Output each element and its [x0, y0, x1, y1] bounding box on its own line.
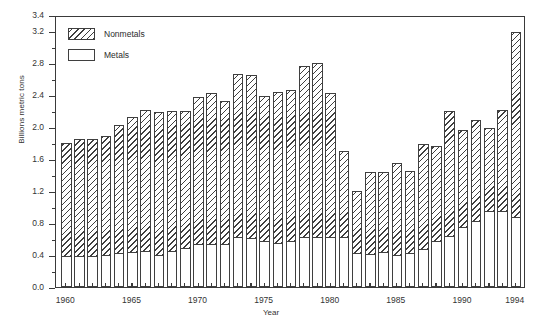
x-tick-mark	[515, 283, 516, 288]
bar-segment-nonmetals	[325, 93, 336, 239]
bar-segment-nonmetals	[101, 136, 112, 256]
bar-segment-nonmetals	[87, 139, 98, 257]
legend-label: Metals	[104, 50, 129, 60]
bar-segment-nonmetals	[154, 112, 165, 256]
bar-segment-nonmetals	[444, 111, 455, 237]
y-tick-mark	[49, 16, 55, 17]
bar-1986[interactable]	[405, 15, 416, 287]
bar-1994[interactable]	[511, 15, 522, 287]
bar-1972[interactable]	[220, 15, 231, 287]
bar-1983[interactable]	[365, 15, 376, 287]
bar-segment-nonmetals	[378, 172, 389, 253]
bar-segment-metals	[180, 248, 191, 287]
y-tick-mark	[52, 112, 56, 113]
bar-1988[interactable]	[431, 15, 442, 287]
bar-1976[interactable]	[273, 15, 284, 287]
legend-item-metals[interactable]: Metals	[68, 49, 145, 61]
x-tick-label: 1990	[452, 295, 471, 305]
bar-segment-nonmetals	[471, 120, 482, 222]
bar-segment-nonmetals	[339, 151, 350, 237]
bar-segment-metals	[312, 237, 323, 287]
y-tick-label: 3.4	[32, 10, 44, 20]
x-tick-mark	[290, 283, 291, 288]
x-tick-mark	[343, 283, 344, 288]
y-tick-label: 1.6	[32, 154, 44, 164]
bar-segment-nonmetals	[127, 117, 138, 253]
y-tick-mark	[49, 64, 55, 65]
bar-1968[interactable]	[167, 15, 178, 287]
y-tick-mark	[52, 144, 56, 145]
bar-segment-nonmetals	[352, 191, 363, 254]
bar-segment-nonmetals	[246, 75, 257, 239]
y-tick-mark	[52, 176, 56, 177]
bar-1967[interactable]	[154, 15, 165, 287]
bar-segment-nonmetals	[206, 93, 217, 245]
bar-segment-metals	[431, 241, 442, 287]
x-tick-mark	[330, 283, 331, 288]
bar-1984[interactable]	[378, 15, 389, 287]
bar-1981[interactable]	[339, 15, 350, 287]
bar-1985[interactable]	[392, 15, 403, 287]
x-tick-mark	[171, 283, 172, 288]
legend-item-nonmetals[interactable]: Nonmetals	[68, 28, 145, 40]
x-tick-mark	[79, 283, 80, 288]
y-tick-mark	[52, 48, 56, 49]
x-tick-mark	[237, 283, 238, 288]
bar-segment-nonmetals	[392, 163, 403, 257]
x-tick-mark	[303, 283, 304, 288]
bar-1971[interactable]	[206, 15, 217, 287]
bar-segment-metals	[484, 211, 495, 287]
x-tick-label: 1960	[56, 295, 75, 305]
x-tick-label: 1985	[386, 295, 405, 305]
bar-segment-nonmetals	[167, 111, 178, 252]
y-tick-label: 0.8	[32, 218, 44, 228]
bar-1973[interactable]	[233, 15, 244, 287]
bar-1990[interactable]	[458, 15, 469, 287]
bar-segment-metals	[511, 217, 522, 287]
x-tick-mark	[317, 283, 318, 288]
bar-segment-nonmetals	[193, 97, 204, 245]
y-tick-mark	[49, 32, 55, 33]
bar-1975[interactable]	[259, 15, 270, 287]
bar-segment-nonmetals	[74, 139, 85, 257]
bar-1987[interactable]	[418, 15, 429, 287]
bar-1978[interactable]	[299, 15, 310, 287]
y-axis-title: Billions metric tons	[17, 45, 26, 175]
bar-segment-metals	[206, 244, 217, 287]
bar-segment-metals	[167, 251, 178, 287]
bar-1991[interactable]	[471, 15, 482, 287]
x-tick-mark	[422, 283, 423, 288]
bar-segment-nonmetals	[286, 90, 297, 242]
bar-segment-metals	[299, 237, 310, 287]
bar-segment-nonmetals	[405, 171, 416, 255]
bar-1993[interactable]	[497, 15, 508, 287]
bar-1989[interactable]	[444, 15, 455, 287]
bar-segment-nonmetals	[220, 101, 231, 245]
bar-1970[interactable]	[193, 15, 204, 287]
x-tick-mark	[184, 283, 185, 288]
bar-segment-metals	[339, 237, 350, 287]
x-tick-mark	[145, 283, 146, 288]
bar-1982[interactable]	[352, 15, 363, 287]
bar-1974[interactable]	[246, 15, 257, 287]
bar-segment-nonmetals	[140, 110, 151, 252]
bar-1980[interactable]	[325, 15, 336, 287]
bar-1977[interactable]	[286, 15, 297, 287]
bar-segment-nonmetals	[497, 110, 508, 212]
bar-segment-metals	[458, 227, 469, 287]
y-tick-mark	[49, 160, 55, 161]
legend: NonmetalsMetals	[68, 28, 145, 70]
y-tick-label: 2.4	[32, 90, 44, 100]
x-tick-mark	[462, 283, 463, 288]
bar-segment-metals	[233, 237, 244, 287]
bar-segment-metals	[471, 221, 482, 287]
bar-1979[interactable]	[312, 15, 323, 287]
bar-1992[interactable]	[484, 15, 495, 287]
legend-swatch-hatched	[68, 28, 95, 40]
y-tick-label: 3.2	[32, 26, 44, 36]
x-tick-mark	[131, 283, 132, 288]
x-tick-mark	[264, 283, 265, 288]
bar-1969[interactable]	[180, 15, 191, 287]
bar-segment-metals	[325, 237, 336, 287]
y-tick-label: 2.0	[32, 122, 44, 132]
